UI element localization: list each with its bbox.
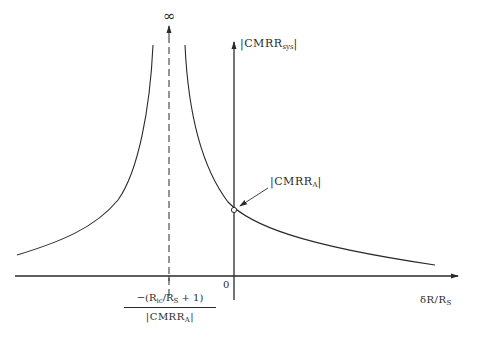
intercept-label: |CMRRA|: [270, 175, 322, 189]
x-axis-label: δR/RS: [420, 294, 451, 307]
asymptote-denominator: |CMRRA|: [124, 308, 216, 324]
curve-right-branch: [185, 45, 435, 265]
y-axis-label: |CMRRsys|: [240, 37, 298, 51]
infinity-label: ∞: [163, 7, 176, 25]
curve-left-branch: [17, 45, 153, 255]
asymptote-numerator: −(Ric/RS + 1): [124, 292, 216, 308]
cmrr-plot: [0, 0, 478, 338]
origin-label: 0: [223, 279, 230, 290]
intercept-point: [231, 207, 236, 212]
asymptote-value-label: −(Ric/RS + 1) |CMRRA|: [124, 292, 216, 324]
intercept-pointer-arrow: [240, 188, 268, 206]
